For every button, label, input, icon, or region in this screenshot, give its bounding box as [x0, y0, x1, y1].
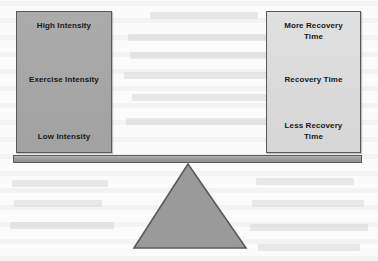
background-bleed-text	[250, 224, 368, 231]
background-bleed-text	[124, 72, 284, 79]
exercise-intensity-pan: High Intensity Exercise Intensity Low In…	[16, 11, 112, 153]
background-bleed-text	[150, 12, 258, 19]
background-bleed-text	[132, 94, 272, 101]
background-bleed-text	[256, 178, 354, 185]
exercise-intensity-title-label: Exercise Intensity	[29, 75, 99, 86]
background-bleed-text	[128, 34, 278, 41]
background-bleed-text	[252, 200, 364, 207]
balance-scale-diagram: High Intensity Exercise Intensity Low In…	[0, 0, 378, 261]
background-bleed-text	[10, 222, 114, 229]
background-bleed-text	[12, 180, 108, 187]
recovery-time-pan: More Recovery Time Recovery Time Less Re…	[266, 11, 361, 153]
background-bleed-text	[126, 118, 278, 125]
exercise-intensity-low-label: Low Intensity	[38, 132, 90, 143]
background-bleed-text	[258, 244, 360, 251]
background-bleed-text	[14, 200, 102, 207]
recovery-time-title-label: Recovery Time	[284, 75, 342, 86]
recovery-time-more-label: More Recovery Time	[284, 21, 343, 42]
exercise-intensity-high-label: High Intensity	[37, 21, 91, 32]
recovery-time-less-label: Less Recovery Time	[285, 121, 343, 142]
background-bleed-text	[130, 52, 275, 59]
fulcrum-triangle-icon	[132, 162, 248, 250]
